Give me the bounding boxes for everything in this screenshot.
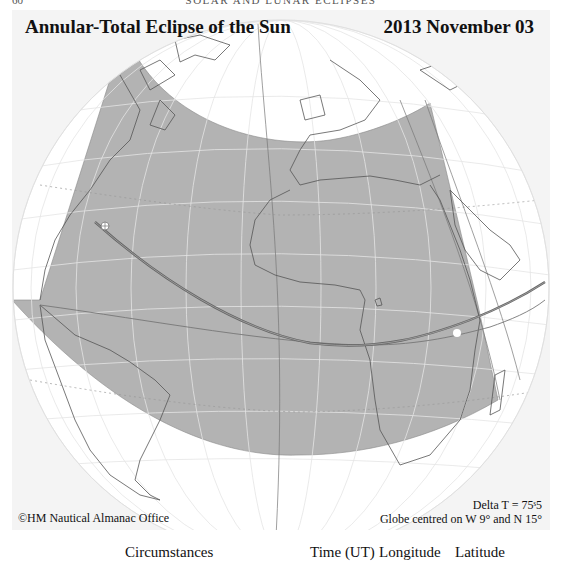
col-circumstances: Circumstances xyxy=(125,544,213,561)
running-head: 60 SOLAR AND LUNAR ECLIPSES xyxy=(0,0,562,6)
col-latitude: Latitude xyxy=(455,544,505,561)
delta-t: Delta T = 75ˢ5 xyxy=(380,498,542,512)
running-title: SOLAR AND LUNAR ECLIPSES xyxy=(0,0,562,6)
col-longitude: Longitude xyxy=(379,544,441,561)
path-start-marker xyxy=(101,222,109,230)
eclipse-map-panel: Annular-Total Eclipse of the Sun 2013 No… xyxy=(12,10,550,530)
circumstances-table-header: Circumstances Time (UT) Longitude Latitu… xyxy=(0,544,562,564)
map-title: Annular-Total Eclipse of the Sun xyxy=(25,16,291,38)
globe-map xyxy=(12,10,550,530)
map-meta: Delta T = 75ˢ5 Globe centred on W 9° and… xyxy=(380,498,542,526)
map-date: 2013 November 03 xyxy=(383,16,534,38)
globe-centre: Globe centred on W 9° and N 15° xyxy=(380,512,542,526)
path-end-marker xyxy=(453,329,461,337)
credit: ©HM Nautical Almanac Office xyxy=(18,511,169,526)
col-time: Time (UT) xyxy=(310,544,375,561)
